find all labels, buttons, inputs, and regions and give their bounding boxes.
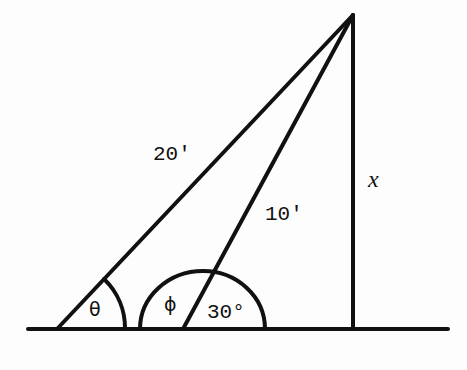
label-x: x (368, 167, 379, 191)
label-phi: ϕ (164, 295, 177, 314)
label-20ft: 20' (153, 144, 191, 165)
phi-30-arc (140, 271, 265, 329)
theta-arc (104, 279, 125, 329)
line-10ft (183, 15, 353, 329)
line-20ft (57, 15, 353, 329)
label-10ft: 10' (265, 204, 303, 225)
triangle-diagram: 20' 10' x θ ϕ 30° (0, 0, 467, 370)
label-30deg: 30° (207, 302, 245, 323)
label-theta: θ (89, 300, 101, 319)
